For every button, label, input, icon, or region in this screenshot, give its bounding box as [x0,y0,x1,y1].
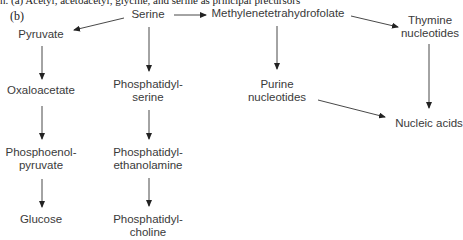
node-label: nucleotides [248,91,306,104]
node-label: ethanolamine [113,159,183,172]
node-serine: Serine [131,8,164,21]
node-phosphatidylethanolamine: Phosphatidyl- ethanolamine [113,146,183,172]
arrow-methylenethf-thymine [351,16,398,27]
node-glucose: Glucose [20,213,62,226]
node-methylenetetrahydrofolate: Methylenetetrahydrofolate [212,7,345,20]
node-thymine-nucleotides: Thymine nucleotides [401,14,459,40]
node-pyruvate: Pyruvate [18,28,63,41]
serine-pathway-diagram: n. (a) Acetyl, acetoacetyl, glycine, and… [0,0,463,240]
node-label: Phosphatidyl- [113,213,183,226]
node-label: Phosphatidyl- [113,78,183,91]
node-label: Thymine [401,14,459,27]
node-label: Nucleic acids [395,117,463,130]
node-label: Purine [248,78,306,91]
node-purine-nucleotides: Purine nucleotides [248,78,306,104]
arrows-layer [0,0,463,240]
node-label: Methylenetetrahydrofolate [212,7,345,20]
node-label: Oxaloacetate [7,84,75,97]
node-oxaloacetate: Oxaloacetate [7,84,75,97]
node-label: Phosphoenol- [6,146,77,159]
node-label: Phosphatidyl- [113,146,183,159]
node-label: Serine [131,8,164,21]
node-label: choline [113,226,183,239]
node-nucleic-acids: Nucleic acids [395,117,463,130]
node-phosphatidylserine: Phosphatidyl- serine [113,78,183,104]
arrow-purine-nucleic [318,100,385,117]
arrow-serine-pyruvate [74,18,124,30]
node-label: Pyruvate [18,28,63,41]
node-label: serine [113,91,183,104]
node-phosphatidylcholine: Phosphatidyl- choline [113,213,183,239]
node-phosphoenolpyruvate: Phosphoenol- pyruvate [6,146,77,172]
node-label: nucleotides [401,27,459,40]
node-label: Glucose [20,213,62,226]
node-label: pyruvate [6,159,77,172]
